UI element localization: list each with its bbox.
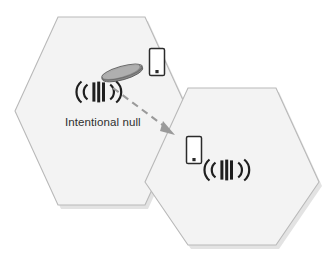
signal-bar: [220, 160, 223, 179]
signal-bar: [225, 160, 228, 181]
signal-bar: [102, 82, 105, 101]
smartphone-icon: [150, 49, 165, 76]
cellular-null-diagram: Intentional null: [0, 0, 333, 264]
smartphone-home-button: [192, 158, 195, 161]
signal-bar: [230, 160, 233, 179]
smartphone-icon: [187, 137, 202, 164]
signal-bar: [92, 82, 95, 101]
smartphone-home-button: [155, 70, 158, 73]
intentional-null-label: Intentional null: [65, 116, 141, 128]
diagram-canvas: Intentional null: [0, 0, 333, 264]
signal-bar: [97, 82, 100, 103]
